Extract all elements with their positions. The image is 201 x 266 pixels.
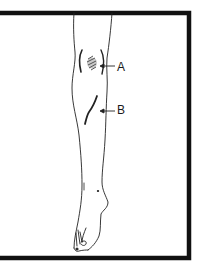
label-a: A xyxy=(117,61,125,73)
pointer-arrow-a xyxy=(100,64,115,68)
label-b: B xyxy=(117,104,125,116)
leg-outline xyxy=(72,13,112,251)
frame-border xyxy=(0,13,189,258)
pointer-arrow-b xyxy=(100,109,115,113)
leg-illustration-figure: A B xyxy=(0,0,201,266)
scar-mark-b xyxy=(85,96,97,124)
bruise-mark-a xyxy=(87,56,97,70)
leg-drawing xyxy=(0,0,201,266)
